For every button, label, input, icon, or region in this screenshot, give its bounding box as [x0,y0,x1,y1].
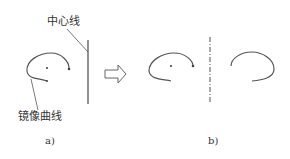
caption-a: a) [45,135,55,146]
center-point-b [170,65,172,67]
caption-b: b) [208,135,218,146]
original-curve-a [27,53,69,81]
centerline-label: 中心线 [47,12,80,28]
curve-endpoint-b [192,65,195,68]
transform-arrow-icon [105,65,126,83]
centerline-leader [67,29,88,52]
mirror-curve-leader [31,79,38,110]
curve-start-a [46,80,48,82]
mirrored-curve [231,52,274,81]
mirror-curve-label: 镜像曲线 [18,107,62,123]
curve-endpoint-a [68,68,71,71]
diagram-canvas [0,0,290,159]
center-point-a [46,67,48,69]
